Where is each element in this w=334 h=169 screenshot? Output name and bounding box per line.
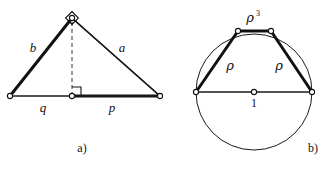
circle-center-node — [251, 89, 256, 94]
label-leg-b: b — [30, 40, 37, 55]
circle-vertex-top-left — [235, 28, 240, 33]
figure-root: b a q p a) ρ 3 — [0, 0, 334, 169]
triangle-leg-b — [10, 18, 72, 96]
figure-canvas: b a q p a) ρ 3 — [0, 0, 334, 169]
vertex-node-foot — [69, 93, 74, 98]
label-chord-rho-cubed-exponent: 3 — [256, 9, 260, 18]
label-leg-a: a — [119, 40, 126, 55]
panel-a-group: b a q p a) — [7, 12, 162, 155]
circle-vertex-right — [309, 89, 314, 94]
vertex-node-apex — [69, 15, 74, 20]
vertex-node-left — [7, 93, 12, 98]
caption-panel-b: b) — [308, 141, 318, 155]
triangle-leg-a-shadow — [73, 19, 160, 96]
vertex-node-right — [157, 93, 162, 98]
circle-vertex-top-right — [268, 28, 273, 33]
label-segment-q: q — [40, 100, 47, 115]
panel-b-group: ρ 3 ρ ρ 1 b) — [193, 9, 318, 155]
label-segment-p: p — [108, 100, 116, 115]
label-chord-rho-right: ρ — [274, 58, 283, 73]
caption-panel-a: a) — [77, 141, 86, 155]
label-chord-rho-left: ρ — [225, 58, 234, 73]
circle-vertex-left — [193, 89, 198, 94]
label-chord-rho-cubed: ρ — [245, 10, 254, 25]
label-radius-one: 1 — [251, 96, 257, 110]
